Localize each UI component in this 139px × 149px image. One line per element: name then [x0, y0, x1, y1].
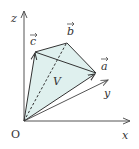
vector-c-label: c [30, 33, 37, 48]
svg-text:a: a [101, 60, 108, 73]
vector-b-label: b [67, 22, 74, 38]
origin-label: O [11, 128, 20, 141]
vector-volume-diagram: z x y O V c b a [0, 0, 139, 149]
z-axis-label: z [10, 12, 17, 25]
x-axis-label: x [122, 129, 129, 142]
y-axis-label: y [103, 87, 111, 100]
svg-text:b: b [67, 25, 74, 38]
volume-label: V [53, 75, 62, 88]
vector-a-label: a [101, 57, 108, 73]
